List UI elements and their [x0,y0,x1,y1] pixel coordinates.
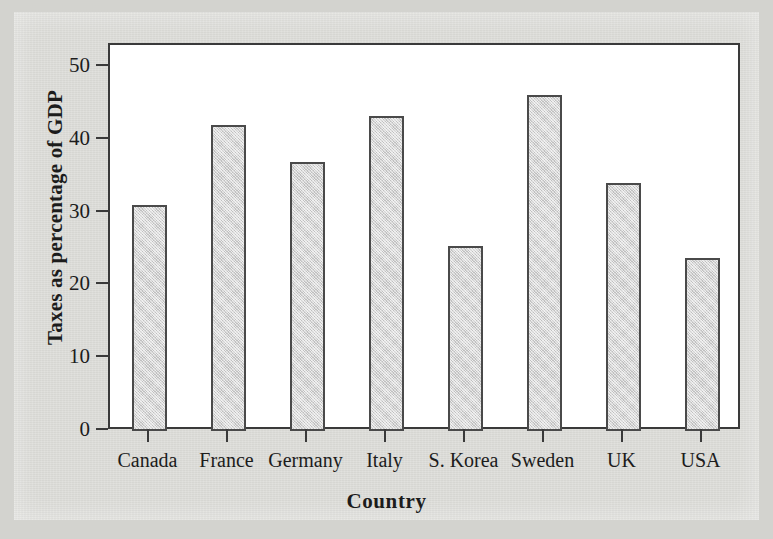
bar [527,95,562,431]
y-axis-tick-label: 50 [30,52,90,77]
y-axis-tick [96,64,108,66]
x-axis-tick-label: France [199,449,253,472]
y-axis-tick-label: 30 [30,198,90,223]
y-axis-tick [96,355,108,357]
bar [132,205,167,431]
y-axis-tick [96,428,108,430]
plot-area [108,43,740,429]
bar [369,116,404,431]
y-axis-tick [96,210,108,212]
x-axis-tick-label: Sweden [511,449,574,472]
x-axis-tick-label: S. Korea [429,449,499,472]
x-axis-tick [147,429,149,442]
x-axis-tick-label: USA [680,449,720,472]
x-axis-tick [621,429,623,442]
bar [606,183,641,431]
x-axis-tick [542,429,544,442]
x-axis-tick [700,429,702,442]
bar [448,246,483,431]
x-axis-tick [463,429,465,442]
x-axis-tick-label: Germany [268,449,342,472]
x-axis-tick [384,429,386,442]
y-axis-tick [96,282,108,284]
bar [211,125,246,431]
bar [290,162,325,431]
bar-chart-figure: Taxes as percentage of GDP 01020304050 C… [0,0,773,539]
y-axis-tick-label: 40 [30,125,90,150]
y-axis-tick [96,137,108,139]
x-axis-tick-label: Italy [366,449,403,472]
x-axis-title: Country [0,489,773,514]
x-axis-tick [305,429,307,442]
x-axis-tick-label: Canada [118,449,178,472]
bar [685,258,720,431]
y-axis-tick-label: 0 [30,417,90,442]
y-axis-tick-label: 20 [30,271,90,296]
x-axis-tick [226,429,228,442]
y-axis-tick-label: 10 [30,344,90,369]
x-axis-tick-label: UK [607,449,636,472]
